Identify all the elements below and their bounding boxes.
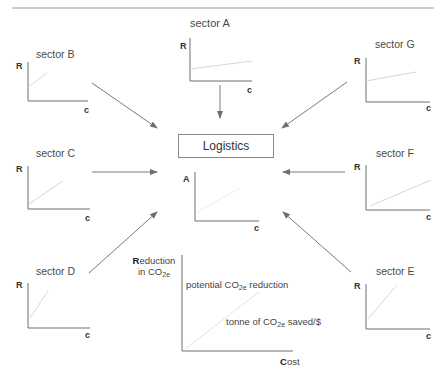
sector-g-x-axis-label: c: [426, 104, 431, 113]
legend-chart: [182, 255, 293, 351]
legend-y-axis-rest: eduction: [139, 255, 175, 266]
sector-d-chart: [28, 283, 90, 328]
sector-f-label: sector F: [376, 148, 414, 159]
sector-b-y-axis-label: R: [16, 62, 23, 71]
sector-b-chart: [28, 62, 88, 101]
legend-x-axis-initial: C: [280, 356, 287, 367]
sector-e-trend-line: [368, 285, 397, 319]
sector-d-label: sector D: [36, 266, 75, 277]
logistics-label: Logistics: [203, 139, 250, 153]
arrow-e-to-logistics: [283, 212, 351, 272]
sector-a-y-axis-label: R: [180, 42, 187, 51]
sector-e-x-axis-label: c: [426, 332, 431, 341]
legend-x-axis-rest: ost: [287, 356, 300, 367]
sector-f-y-axis-label: R: [354, 163, 361, 172]
sector-d-x-axis-label: c: [85, 331, 90, 340]
sector-a-trend-line: [190, 61, 252, 69]
sector-c-x-axis-label: c: [85, 214, 90, 223]
sector-f-x-axis-label: c: [426, 213, 431, 222]
sector-b-x-axis-label: c: [84, 106, 89, 115]
sector-e-chart: [366, 284, 430, 329]
tonne-saved-sub: 2e: [277, 321, 285, 328]
sector-e-label: sector E: [376, 266, 415, 277]
logistics-chart: [195, 172, 259, 221]
sector-a-label: sector A: [190, 18, 230, 29]
legend-y-axis-label: Reduction in CO2e: [128, 255, 180, 280]
tonne-saved-suffix: saved/$: [285, 316, 321, 327]
tonne-saved-prefix: tonne of CO: [226, 316, 277, 327]
tonne-saved-annotation: tonne of CO2e saved/$: [226, 316, 321, 329]
sector-g-label: sector G: [375, 39, 415, 50]
sector-g-chart: [366, 58, 430, 102]
sector-c-chart: [28, 166, 90, 209]
sector-b-label: sector B: [36, 49, 75, 60]
legend-y-axis-sub: 2e: [162, 271, 170, 278]
sector-f-trend-line: [370, 180, 431, 206]
legend-y-axis-line2: in CO: [138, 266, 162, 277]
logistics-node: Logistics: [178, 134, 274, 158]
logistics-x-axis-label: c: [254, 224, 259, 233]
sector-c-label: sector C: [36, 148, 75, 159]
sector-c-y-axis-label: R: [16, 165, 23, 174]
potential-reduction-suffix: reduction: [247, 279, 289, 290]
potential-reduction-prefix: potential CO: [186, 279, 239, 290]
logistics-y-axis-label: A: [183, 175, 190, 184]
sector-a-x-axis-label: c: [247, 86, 252, 95]
sector-e-y-axis-label: R: [354, 282, 361, 291]
potential-reduction-annotation: potential CO2e reduction: [186, 279, 288, 292]
legend-x-axis-label: Cost: [280, 356, 300, 367]
sector-g-y-axis-label: R: [354, 57, 361, 66]
arrow-b-to-logistics: [92, 83, 157, 128]
sector-f-chart: [366, 165, 431, 210]
sector-d-y-axis-label: R: [16, 281, 23, 290]
sector-b-trend-line: [28, 73, 47, 87]
diagram-canvas: sector A sector B sector G sector C sect…: [0, 0, 446, 383]
arrow-g-to-logistics: [282, 82, 347, 128]
sector-c-trend-line: [29, 181, 63, 204]
sector-a-chart: [190, 38, 252, 81]
logistics-trend-line: [197, 188, 240, 212]
potential-reduction-sub: 2e: [239, 284, 247, 291]
sector-g-trend-line: [366, 72, 416, 81]
sector-d-trend-line: [30, 291, 48, 318]
